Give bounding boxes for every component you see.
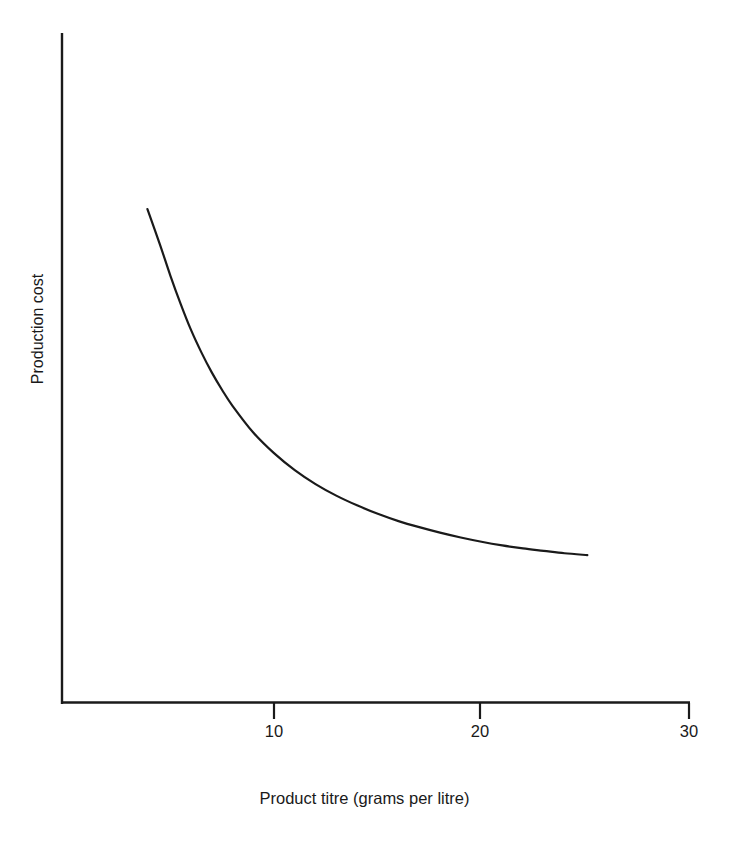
line-chart-plot [0,0,729,850]
x-axis-label: Product titre (grams per litre) [0,789,729,808]
chart-figure: Production cost 10 20 30 Product titre (… [0,0,729,850]
y-axis-label: Production cost [29,229,47,429]
data-series-line [147,209,587,555]
x-tick-label-20: 20 [450,722,510,741]
x-tick-label-30: 30 [659,722,719,741]
x-tick-label-10: 10 [244,722,304,741]
